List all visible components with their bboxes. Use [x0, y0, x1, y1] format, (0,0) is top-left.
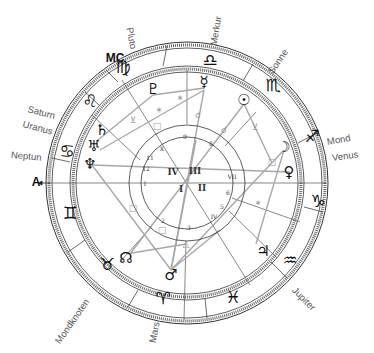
house-number-1: I: [144, 180, 146, 187]
quadrant-q3: III: [189, 166, 202, 176]
planet-mercury-icon: ☿: [199, 75, 208, 90]
zodiac-aquarius-icon: ♒: [282, 252, 297, 269]
house-number-4: IV: [211, 213, 218, 220]
zodiac-pisces-icon: ♓: [225, 289, 240, 306]
aspect-square-icon: □: [268, 157, 277, 167]
house-number-8: 8: [209, 140, 213, 147]
quadrant-q2: II: [198, 183, 206, 193]
house-number-7: VII: [227, 173, 236, 180]
aspect-conjunction-icon: ☌: [195, 110, 201, 120]
planet-node-icon: ☊: [119, 251, 132, 266]
planet-pluto-icon: ♇: [146, 82, 159, 97]
planet-uranus-icon: ♅: [87, 139, 100, 154]
house-number-2: 2: [161, 217, 165, 224]
aspect-square-icon: □: [153, 121, 162, 131]
house-number-5: 5: [220, 203, 224, 210]
zodiac-gemini-icon: ♊: [62, 205, 77, 222]
zodiac-aries-icon: ♈: [155, 290, 170, 307]
zodiac-capricorn-icon: ♑: [310, 193, 325, 210]
zodiac-cancer-icon: ♋: [59, 143, 74, 160]
quadrant-q1: I: [179, 184, 183, 194]
planet-neptune-icon: ♆: [83, 157, 96, 172]
horoscope-wheel: [0, 0, 374, 353]
planet-jupiter-icon: ♃: [256, 244, 269, 259]
aspect-sextile-icon: ✶: [176, 93, 184, 103]
planet-sun-icon: ☉: [237, 93, 250, 108]
angle-asc: A: [32, 176, 41, 188]
zodiac-leo-icon: ♌: [82, 93, 97, 110]
zodiac-libra-icon: ♎: [202, 52, 217, 69]
planet-moon-icon: ☽: [277, 140, 290, 155]
aspect-semisextile-icon: ⊻: [252, 122, 259, 132]
house-number-12: 12: [142, 165, 150, 172]
house-number-11: 11: [146, 154, 154, 161]
planet-mars-icon: ♂: [164, 268, 177, 283]
aspect-square-icon: □: [158, 225, 167, 235]
aspect-sextile-icon: ✶: [155, 105, 163, 115]
quadrant-q4: IV: [167, 167, 178, 177]
aspect-conjunction-icon: ☌: [221, 125, 227, 135]
house-number-3: 3: [187, 224, 191, 231]
zodiac-taurus-icon: ♉: [99, 256, 114, 273]
zodiac-sagittarius-icon: ♐: [304, 128, 319, 145]
zodiac-virgo-icon: ♍: [115, 59, 130, 76]
aspect-trine-icon: △: [183, 239, 190, 249]
house-number-10: X: [160, 145, 164, 152]
house-number-9: 9: [183, 133, 187, 140]
zodiac-scorpio-icon: ♏: [265, 77, 280, 94]
planet-venus-icon: ♀: [284, 165, 295, 180]
aspect-sextile-icon: ✶: [254, 198, 262, 208]
planet-saturn-icon: ♄: [95, 123, 108, 138]
aspect-semisextile-icon: ⊻: [130, 115, 137, 125]
house-number-6: 6: [226, 189, 230, 196]
aspect-square-icon: □: [129, 203, 138, 213]
